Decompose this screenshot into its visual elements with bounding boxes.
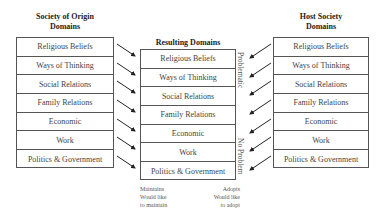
adopts-line1: Adopts xyxy=(200,185,240,193)
arrow-icon xyxy=(250,44,271,170)
arrow-icon xyxy=(117,44,135,168)
maintains-line1: Maintains xyxy=(140,185,167,193)
maintains-line2: Would like xyxy=(140,193,167,201)
adopts-line2: Would like xyxy=(200,193,240,201)
adopts-line3: to adopt xyxy=(200,201,240,209)
adopts-note: Adopts Would like to adopt xyxy=(200,185,240,209)
arrows-layer xyxy=(0,0,384,220)
maintains-line3: to maintain xyxy=(140,201,167,209)
maintains-note: Maintains Would like to maintain xyxy=(140,185,167,209)
